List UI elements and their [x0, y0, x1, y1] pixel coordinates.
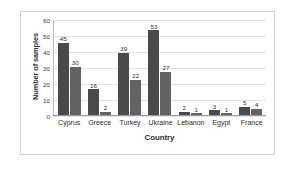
chart-figure: Number of samples 0102030405060 45301623…	[20, 11, 275, 155]
bar-value-label: 30	[72, 60, 79, 66]
bar[interactable]	[191, 113, 202, 115]
bar-group: 4530	[54, 20, 84, 115]
x-axis-line	[53, 115, 266, 116]
bar-group: 21	[175, 20, 205, 115]
bar-group: 31	[205, 20, 235, 115]
y-axis-tick-label: 0	[47, 113, 50, 120]
x-axis-category-labels: CyprusGreeceTurkeyUkraineLebanonEgyptFra…	[54, 119, 267, 126]
bar-value-label: 3	[213, 104, 216, 110]
bar[interactable]	[251, 109, 262, 115]
x-axis-title: Country	[53, 133, 266, 142]
bar-value-label: 16	[90, 83, 97, 89]
bar-column: 3	[209, 20, 220, 115]
bar[interactable]	[70, 67, 81, 115]
bar[interactable]	[239, 107, 250, 115]
gridline	[53, 116, 266, 117]
bar-value-label: 22	[132, 73, 139, 79]
bar-value-label: 39	[120, 46, 127, 52]
bar-column: 39	[118, 20, 129, 115]
y-axis-tick-label: 10	[43, 97, 50, 104]
bar-value-label: 2	[104, 105, 107, 111]
bar-group: 54	[236, 20, 266, 115]
bar[interactable]	[209, 110, 220, 115]
bar-column: 45	[58, 20, 69, 115]
bar-value-label: 53	[151, 24, 158, 30]
bar-value-label: 2	[183, 105, 186, 111]
bar[interactable]	[100, 112, 111, 115]
x-axis-category-label: Lebanon	[176, 119, 206, 126]
y-axis-tick-label: 20	[43, 81, 50, 88]
bar-column: 2	[179, 20, 190, 115]
bar-column: 16	[88, 20, 99, 115]
bar-column: 1	[221, 20, 232, 115]
bar-column: 1	[191, 20, 202, 115]
bar-value-label: 1	[195, 107, 198, 113]
y-axis-tick-label: 50	[43, 33, 50, 40]
bar-value-label: 1	[225, 107, 228, 113]
bar[interactable]	[221, 113, 232, 115]
bar-column: 22	[130, 20, 141, 115]
x-axis-category-label: Greece	[84, 119, 114, 126]
bar[interactable]	[179, 112, 190, 115]
y-axis-tick-label: 60	[43, 17, 50, 24]
bar-column: 2	[100, 20, 111, 115]
bar-column: 53	[148, 20, 159, 115]
y-axis-tick-label: 40	[43, 49, 50, 56]
x-axis-category-label: Ukraine	[145, 119, 175, 126]
bar[interactable]	[118, 53, 129, 115]
y-axis-title: Number of samples	[31, 24, 40, 110]
bar-groups: 453016239225327213154	[54, 20, 266, 115]
bar-value-label: 5	[243, 100, 246, 106]
bar-group: 162	[84, 20, 114, 115]
bar-column: 5	[239, 20, 250, 115]
bar-column: 4	[251, 20, 262, 115]
bar[interactable]	[58, 43, 69, 115]
bar-column: 30	[70, 20, 81, 115]
bar-value-label: 4	[255, 102, 258, 108]
bar-value-label: 45	[60, 36, 67, 42]
x-axis-category-label: Cyprus	[54, 119, 84, 126]
x-axis-category-label: Egypt	[206, 119, 236, 126]
bar-value-label: 27	[163, 65, 170, 71]
y-axis-tick-label: 30	[43, 65, 50, 72]
plot-area: 0102030405060 453016239225327213154	[53, 20, 266, 116]
bar[interactable]	[160, 72, 171, 115]
x-axis-category-label: Turkey	[115, 119, 145, 126]
bar[interactable]	[88, 89, 99, 115]
bar-group: 5327	[145, 20, 175, 115]
bar-group: 3922	[115, 20, 145, 115]
bar-column: 27	[160, 20, 171, 115]
x-axis-category-label: France	[237, 119, 267, 126]
bar[interactable]	[148, 30, 159, 115]
bar[interactable]	[130, 80, 141, 115]
